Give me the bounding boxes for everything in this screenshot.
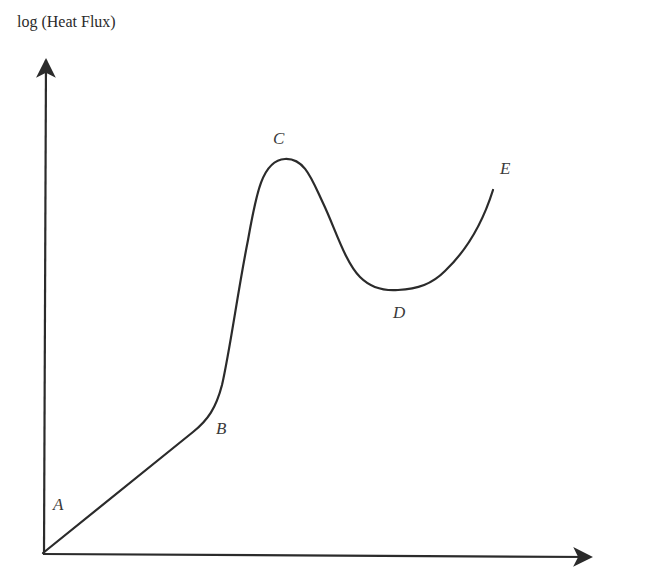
point-label-d: D bbox=[393, 304, 405, 321]
y-axis bbox=[44, 60, 46, 554]
boiling-curve-line bbox=[43, 159, 493, 553]
plot-area bbox=[0, 0, 647, 580]
point-label-c: C bbox=[273, 130, 284, 147]
point-label-e: E bbox=[500, 160, 510, 177]
point-label-a: A bbox=[53, 496, 63, 513]
x-axis bbox=[43, 554, 591, 557]
point-label-b: B bbox=[216, 420, 226, 437]
boiling-curve-diagram: log (Heat Flux) A B C D E bbox=[0, 0, 647, 580]
